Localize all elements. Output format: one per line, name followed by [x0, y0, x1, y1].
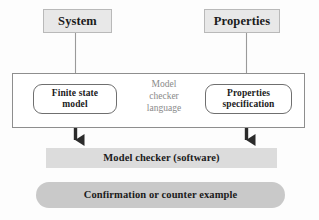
- node-properties-specification-label: Properties specification: [223, 88, 275, 109]
- node-system-label: System: [58, 14, 97, 28]
- node-properties-label: Properties: [214, 14, 270, 28]
- node-system: System: [43, 9, 112, 33]
- model-checker-language-label: Model checker language: [131, 78, 197, 114]
- node-model-checker-software-label: Model checker (software): [103, 152, 219, 164]
- node-result-label: Confirmation or counter example: [84, 189, 237, 201]
- node-result: Confirmation or counter example: [36, 182, 285, 208]
- node-model-checker-software: Model checker (software): [46, 148, 277, 168]
- node-finite-state-model-label: Finite state model: [52, 88, 98, 109]
- node-properties-specification: Properties specification: [205, 84, 292, 114]
- model-checking-diagram: System Properties Finite state model Mod…: [0, 0, 319, 220]
- node-finite-state-model: Finite state model: [33, 84, 117, 114]
- node-properties: Properties: [204, 9, 280, 33]
